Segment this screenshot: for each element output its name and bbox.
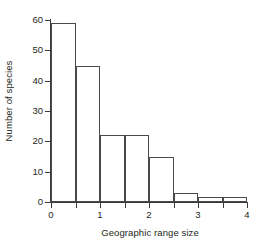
- x-axis-minor-tick: [174, 203, 175, 208]
- histogram-figure: Number of species Geographic range size …: [0, 0, 256, 247]
- y-axis-tick: [45, 20, 50, 21]
- x-axis-title: Geographic range size: [44, 227, 256, 238]
- x-axis-tick: [149, 203, 150, 208]
- y-axis-tick-label: 60: [17, 15, 43, 25]
- histogram-bar: [174, 193, 199, 202]
- histogram-bar: [100, 135, 125, 202]
- y-axis-tick-label: 20: [17, 136, 43, 146]
- y-axis-title: Number of species: [2, 6, 16, 196]
- x-axis-tick-label: 3: [188, 209, 208, 220]
- histogram-bar: [125, 135, 150, 202]
- y-axis-tick: [45, 172, 50, 173]
- x-axis-tick-label: 2: [139, 209, 159, 220]
- histogram-bar: [51, 23, 76, 202]
- plot-area: [51, 20, 247, 202]
- y-axis-tick-label: 30: [17, 106, 43, 116]
- histogram-bar: [198, 197, 223, 202]
- x-axis-tick: [247, 203, 248, 208]
- x-axis-minor-tick: [76, 203, 77, 208]
- histogram-bar: [223, 197, 248, 202]
- x-axis-tick: [198, 203, 199, 208]
- y-axis-tick: [45, 81, 50, 82]
- x-axis-tick: [100, 203, 101, 208]
- y-axis-tick: [45, 202, 50, 203]
- histogram-bar: [76, 66, 101, 203]
- x-axis-minor-tick: [125, 203, 126, 208]
- histogram-bar: [149, 157, 174, 203]
- y-axis-tick-label: 40: [17, 76, 43, 86]
- x-axis-tick-label: 0: [41, 209, 61, 220]
- x-axis-minor-tick: [223, 203, 224, 208]
- y-axis-tick-label: 0: [17, 197, 43, 207]
- y-axis-tick: [45, 111, 50, 112]
- y-axis-tick: [45, 50, 50, 51]
- y-axis-tick-label: 50: [17, 45, 43, 55]
- x-axis-tick-label: 4: [237, 209, 256, 220]
- y-axis-tick-label: 10: [17, 167, 43, 177]
- x-axis-tick-label: 1: [90, 209, 110, 220]
- y-axis-tick: [45, 141, 50, 142]
- x-axis-tick: [51, 203, 52, 208]
